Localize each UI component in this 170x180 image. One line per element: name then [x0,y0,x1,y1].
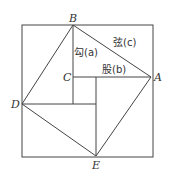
label-gou: 勾(a) [74,46,98,58]
point-label-B: B [68,12,77,25]
label-xian: 弦(c) [113,36,136,48]
point-label-D: D [10,98,20,111]
point-label-C: C [63,71,72,84]
label-gu: 股(b) [102,64,126,75]
point-label-A: A [153,71,162,84]
pythagorean-diagram: B A C D E 勾(a) 弦(c) 股(b) [0,0,170,180]
point-label-E: E [91,159,100,172]
